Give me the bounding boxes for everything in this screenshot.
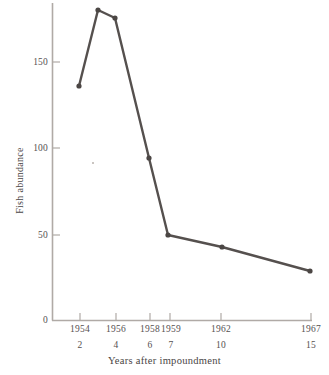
- y-tick-label-50: 50: [24, 230, 48, 240]
- data-point-1962: [219, 244, 224, 249]
- data-point-1954: [76, 83, 81, 88]
- data-point-1959: [165, 232, 170, 237]
- data-point-1956: [112, 15, 117, 20]
- x-tick-year-1959: 1959: [161, 324, 181, 334]
- x-tick-year-1958: 1958: [140, 324, 160, 334]
- x-tick-years-after-7: 7: [169, 340, 174, 350]
- y-tick-label-150: 150: [24, 57, 48, 67]
- x-tick-year-1956: 1956: [106, 324, 126, 334]
- plot-area: [0, 0, 329, 375]
- x-tick-years-after-4: 4: [114, 340, 119, 350]
- data-point-1958: [146, 155, 151, 160]
- x-tick-year-1967: 1967: [301, 324, 321, 334]
- x-tick-year-1954: 1954: [70, 324, 90, 334]
- x-axis-title: Years after impoundment: [0, 355, 329, 366]
- fish-abundance-line-chart: 150 100 50 0 1954 1956 1958 1959 1962 19…: [0, 0, 329, 375]
- data-point-1955: [95, 7, 100, 12]
- x-tick-years-after-2: 2: [78, 340, 83, 350]
- data-line-fish-abundance: [79, 10, 310, 271]
- data-point-1967: [307, 268, 312, 273]
- y-tick-label-100: 100: [24, 143, 48, 153]
- y-axis-title: Fish abundance: [14, 126, 25, 236]
- x-tick-years-after-15: 15: [306, 340, 316, 350]
- y-axis-ticks: [53, 62, 61, 235]
- x-axis-ticks: [80, 313, 311, 321]
- x-tick-year-1962: 1962: [211, 324, 231, 334]
- y-tick-label-0: 0: [24, 315, 48, 325]
- scan-speck: [92, 162, 94, 164]
- x-tick-years-after-10: 10: [216, 340, 226, 350]
- data-point-markers: [76, 7, 312, 273]
- x-tick-years-after-6: 6: [148, 340, 153, 350]
